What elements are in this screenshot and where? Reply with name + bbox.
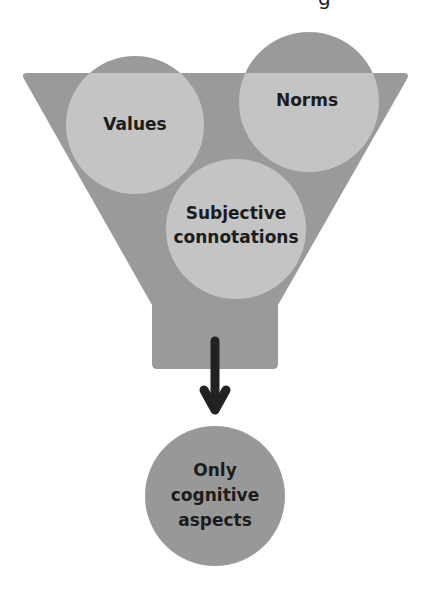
output-label: Only cognitive aspects (171, 458, 259, 533)
values-label: Values (103, 112, 166, 136)
subjective-connotations-label: Subjective connotations (173, 201, 298, 249)
norms-label: Norms (276, 88, 338, 112)
